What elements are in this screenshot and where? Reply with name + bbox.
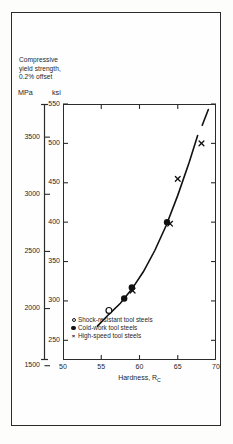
data-point-filled-circle-1-0 (121, 295, 127, 301)
ksi-tick-label-500: 500 (42, 139, 60, 146)
ksi-tick-label-450: 450 (42, 178, 60, 185)
ksi-tick-label-250: 250 (42, 336, 60, 343)
x-axis-title-main: Hardness, R (118, 374, 157, 381)
x-tick-label-65: 65 (169, 363, 187, 370)
data-point-markers (106, 141, 204, 313)
ksi-tick-label-400: 400 (42, 218, 60, 225)
legend-marker-open-circle-icon (69, 316, 78, 324)
x-axis-title-subscript: C (157, 377, 161, 383)
figure-container: Compressive yield strength, 0.2% offset … (0, 0, 233, 444)
ksi-tick-label-550: 550 (42, 100, 60, 107)
data-point-cross-2-2 (175, 176, 180, 181)
mpa-tick-label-1500: 1500 (14, 361, 40, 368)
mpa-tick-label-3000: 3000 (14, 190, 40, 197)
x-axis-title: Hardness, RC (63, 374, 216, 383)
legend-label-0: Shock-resistant tool steels (78, 316, 153, 324)
trend-curve-break-segment (202, 110, 208, 126)
legend-item-2: ×High-speed tool steels (69, 332, 153, 340)
ksi-tick-label-300: 300 (42, 296, 60, 303)
ksi-tick-label-350: 350 (42, 257, 60, 264)
x-tick-label-50: 50 (54, 363, 72, 370)
legend-item-0: Shock-resistant tool steels (69, 316, 153, 324)
legend-marker-cross-icon: × (69, 332, 78, 340)
mpa-tick-label-2500: 2500 (14, 247, 40, 254)
data-point-cross-2-3 (199, 141, 204, 146)
x-tick-label-70: 70 (207, 363, 225, 370)
x-tick-label-55: 55 (92, 363, 110, 370)
legend-marker-filled-circle-icon (69, 324, 78, 332)
right-edge-tick-marks (211, 104, 216, 340)
x-tick-label-60: 60 (131, 363, 149, 370)
mpa-tick-label-3500: 3500 (14, 133, 40, 140)
data-point-open-circle-0-0 (106, 307, 112, 313)
ksi-tick-marks (63, 104, 68, 340)
chart-legend: Shock-resistant tool steelsCold-work too… (69, 316, 153, 341)
mpa-tick-label-2000: 2000 (14, 304, 40, 311)
trend-curve (97, 136, 197, 327)
legend-label-1: Cold-work tool steels (78, 324, 137, 332)
legend-label-2: High-speed tool steels (78, 332, 141, 340)
legend-item-1: Cold-work tool steels (69, 324, 153, 332)
